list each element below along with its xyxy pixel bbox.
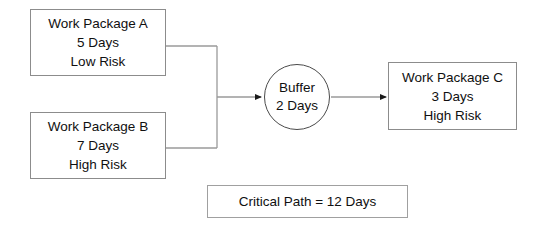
critical-path-label: Critical Path = 12 Days bbox=[239, 192, 377, 211]
node-work-package-c[interactable]: Work Package C 3 Days High Risk bbox=[388, 62, 517, 130]
work-package-c-name: Work Package C bbox=[402, 68, 503, 87]
work-package-a-risk: Low Risk bbox=[71, 52, 126, 71]
work-package-b-risk: High Risk bbox=[69, 155, 127, 174]
critical-path-summary: Critical Path = 12 Days bbox=[207, 185, 408, 218]
node-work-package-b[interactable]: Work Package B 7 Days High Risk bbox=[30, 112, 166, 179]
buffer-duration: 2 Days bbox=[276, 97, 318, 115]
work-package-b-duration: 7 Days bbox=[77, 136, 119, 155]
work-package-b-name: Work Package B bbox=[48, 117, 148, 136]
diagram-canvas: Work Package A 5 Days Low Risk Work Pack… bbox=[0, 0, 545, 230]
work-package-a-duration: 5 Days bbox=[77, 33, 119, 52]
buffer-name: Buffer bbox=[279, 79, 315, 97]
work-package-c-risk: High Risk bbox=[424, 106, 482, 125]
work-package-c-duration: 3 Days bbox=[431, 87, 473, 106]
work-package-a-name: Work Package A bbox=[48, 14, 148, 33]
node-buffer[interactable]: Buffer 2 Days bbox=[264, 64, 330, 130]
node-work-package-a[interactable]: Work Package A 5 Days Low Risk bbox=[30, 9, 166, 76]
